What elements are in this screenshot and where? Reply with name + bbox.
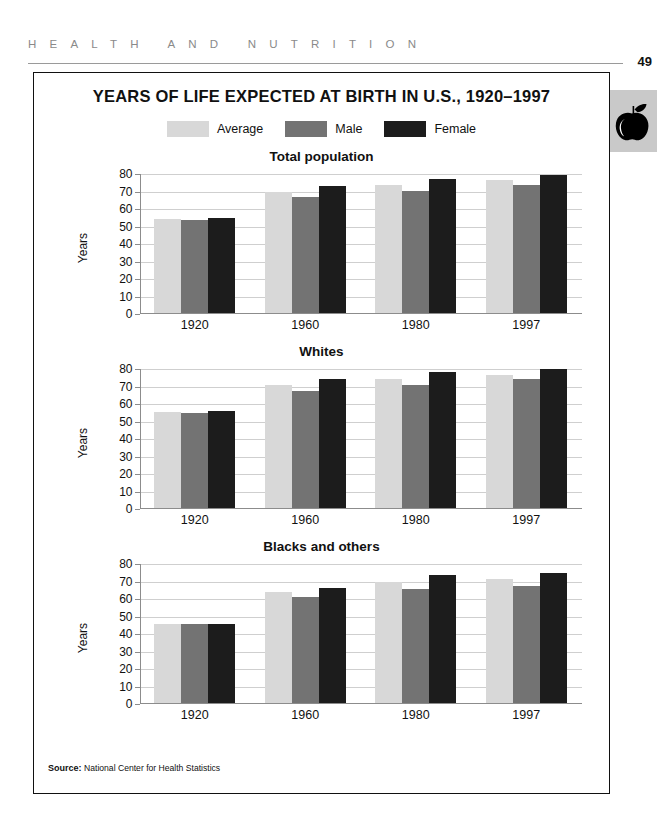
bar-female	[429, 372, 456, 507]
y-axis-label: Years	[76, 428, 90, 458]
chart-panels: Total populationYears8070605040302010019…	[34, 149, 609, 718]
x-tick-label: 1920	[140, 318, 251, 332]
header-rule	[28, 63, 623, 64]
chart-title: Blacks and others	[34, 539, 609, 554]
y-tick-label: 10	[119, 290, 132, 304]
x-axis-line	[140, 313, 582, 315]
bar-group	[471, 369, 582, 508]
bar-female	[319, 186, 346, 313]
y-tick-mark	[135, 704, 140, 705]
bar-female	[540, 573, 567, 702]
x-tick-label: 1997	[471, 318, 582, 332]
bar-average	[375, 379, 402, 508]
bar-male	[181, 220, 208, 313]
bar-average	[486, 180, 513, 312]
bar-average	[154, 412, 181, 507]
x-axis-labels: 1920196019801997	[140, 513, 582, 527]
x-axis-line	[140, 508, 582, 510]
y-tick-label: 50	[119, 610, 132, 624]
source-text: National Center for Health Statistics	[84, 763, 220, 773]
bar-female	[319, 379, 346, 507]
x-tick-label: 1997	[471, 513, 582, 527]
bar-group	[250, 174, 361, 313]
bar-male	[292, 197, 319, 312]
legend-label-male: Male	[335, 122, 362, 136]
y-tick-label: 80	[119, 167, 132, 181]
y-tick-label: 50	[119, 415, 132, 429]
bar-male	[513, 586, 540, 702]
bar-container	[140, 369, 582, 508]
chart-body: Years807060504030201001920196019801997	[62, 168, 582, 328]
bar-average	[265, 385, 292, 507]
figure-frame: YEARS OF LIFE EXPECTED AT BIRTH IN U.S.,…	[33, 72, 610, 794]
bar-average	[486, 579, 513, 702]
y-tick-label: 0	[126, 502, 133, 516]
legend-swatch-average	[167, 121, 209, 137]
bar-group	[471, 174, 582, 313]
bar-group	[361, 369, 472, 508]
x-tick-label: 1980	[361, 708, 472, 722]
y-tick-label: 40	[119, 432, 132, 446]
y-axis-label: Years	[76, 623, 90, 653]
bar-container	[140, 564, 582, 703]
y-tick-label: 20	[119, 662, 132, 676]
plot-area: 80706050403020100	[140, 174, 582, 314]
x-tick-label: 1980	[361, 318, 472, 332]
bar-male	[181, 413, 208, 507]
source-note: Source: National Center for Health Stati…	[48, 763, 220, 773]
y-tick-label: 30	[119, 645, 132, 659]
bar-male	[402, 385, 429, 507]
y-tick-label: 10	[119, 680, 132, 694]
chart-body: Years807060504030201001920196019801997	[62, 363, 582, 523]
legend-swatch-female	[384, 121, 426, 137]
bar-group	[250, 564, 361, 703]
page-number: 49	[638, 54, 652, 69]
legend-item-average: Average	[167, 121, 263, 137]
x-axis-labels: 1920196019801997	[140, 318, 582, 332]
chart-title: Whites	[34, 344, 609, 359]
bar-male	[181, 624, 208, 703]
apple-icon	[612, 100, 652, 142]
y-tick-label: 10	[119, 485, 132, 499]
bar-female	[429, 575, 456, 702]
y-tick-label: 20	[119, 467, 132, 481]
y-tick-label: 80	[119, 362, 132, 376]
x-tick-label: 1960	[250, 513, 361, 527]
y-tick-label: 60	[119, 397, 132, 411]
chart-body: Years807060504030201001920196019801997	[62, 558, 582, 718]
y-tick-label: 70	[119, 380, 132, 394]
bar-average	[375, 582, 402, 702]
y-tick-label: 0	[126, 697, 133, 711]
legend-label-female: Female	[434, 122, 476, 136]
bar-average	[265, 192, 292, 313]
chart-title: Total population	[34, 149, 609, 164]
y-tick-label: 40	[119, 627, 132, 641]
y-tick-label: 70	[119, 185, 132, 199]
y-tick-label: 60	[119, 202, 132, 216]
y-tick-label: 20	[119, 272, 132, 286]
legend-label-average: Average	[217, 122, 263, 136]
chart-legend: Average Male Female	[34, 121, 609, 137]
y-tick-label: 30	[119, 255, 132, 269]
bar-average	[265, 592, 292, 702]
bar-female	[429, 179, 456, 313]
chapter-tab	[607, 90, 657, 152]
bar-group	[140, 174, 251, 313]
legend-item-female: Female	[384, 121, 476, 137]
bar-group	[471, 564, 582, 703]
bar-female	[208, 218, 235, 313]
plot-area: 80706050403020100	[140, 564, 582, 704]
source-label: Source:	[48, 763, 82, 773]
figure-title: YEARS OF LIFE EXPECTED AT BIRTH IN U.S.,…	[34, 87, 609, 106]
bar-male	[292, 391, 319, 508]
bar-female	[540, 369, 567, 507]
legend-item-male: Male	[285, 121, 362, 137]
y-tick-mark	[135, 509, 140, 510]
y-axis-label: Years	[76, 233, 90, 263]
x-tick-label: 1960	[250, 318, 361, 332]
bar-male	[513, 185, 540, 312]
x-tick-label: 1980	[361, 513, 472, 527]
y-tick-label: 80	[119, 557, 132, 571]
y-tick-label: 40	[119, 237, 132, 251]
legend-swatch-male	[285, 121, 327, 137]
